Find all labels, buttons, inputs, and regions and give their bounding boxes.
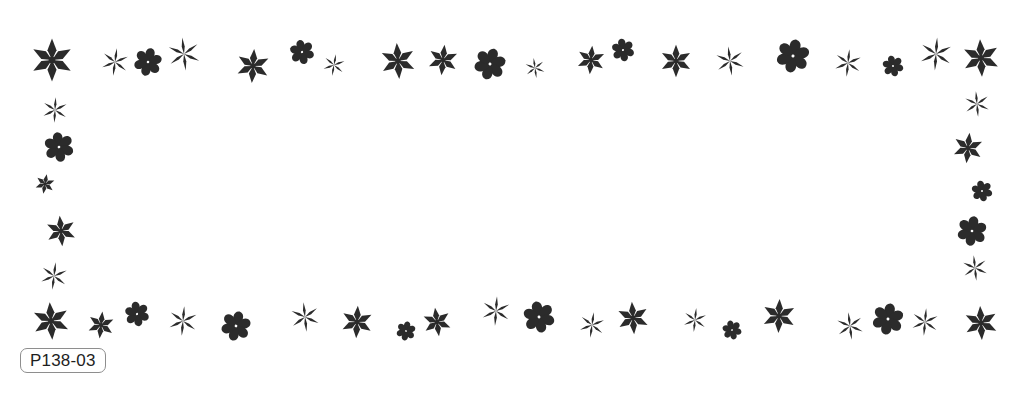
- ornament-star-thin-icon: [909, 306, 942, 339]
- reference-label-text: P138-03: [30, 351, 96, 371]
- ornament-star-bold-icon: [32, 171, 57, 196]
- ornament-star-thin-icon: [166, 304, 201, 339]
- ornament-star-thin-icon: [320, 51, 348, 79]
- ornament-star-thin-icon: [960, 253, 991, 284]
- ornament-star-thin-icon: [917, 35, 955, 73]
- ornament-star-bold-icon: [233, 46, 274, 87]
- ornament-star-bold-icon: [419, 304, 455, 340]
- ornament-star-thin-icon: [40, 95, 69, 124]
- ornament-star-bold-icon: [43, 213, 80, 250]
- ornament-flower-petal-icon: [121, 298, 153, 330]
- ornament-star-thin-icon: [98, 45, 132, 79]
- ornament-star-thin-icon: [681, 306, 710, 335]
- ornament-star-thin-icon: [523, 56, 548, 81]
- ornament-star-bold-icon: [29, 299, 74, 344]
- ornament-star-thin-icon: [37, 259, 70, 292]
- ornament-star-bold-icon: [614, 299, 652, 337]
- ornament-flower-petal-icon: [878, 51, 907, 80]
- ornament-flower-petal-icon: [608, 35, 638, 65]
- ornament-star-bold-icon: [759, 296, 798, 335]
- ornament-star-bold-icon: [377, 40, 420, 83]
- ornament-flower-petal-icon: [129, 43, 168, 82]
- ornament-flower-petal-icon: [770, 33, 815, 78]
- ornament-flower-petal-icon: [468, 42, 513, 87]
- reference-label: P138-03: [20, 348, 106, 373]
- ornament-star-bold-icon: [574, 43, 609, 78]
- ornament-star-thin-icon: [479, 294, 513, 328]
- ornament-star-bold-icon: [961, 303, 1001, 343]
- ornament-star-bold-icon: [338, 303, 376, 341]
- ornament-flower-petal-icon: [285, 35, 318, 68]
- ornament-star-thin-icon: [832, 47, 865, 80]
- ornament-frame: [0, 0, 1023, 393]
- ornament-flower-petal-icon: [968, 177, 996, 205]
- ornament-star-thin-icon: [962, 89, 992, 119]
- ornament-flower-petal-icon: [867, 298, 909, 340]
- ornament-star-bold-icon: [959, 36, 1003, 80]
- ornament-flower-petal-icon: [719, 317, 746, 344]
- ornament-star-thin-icon: [164, 34, 204, 74]
- ornament-flower-petal-icon: [953, 212, 992, 251]
- ornament-star-thin-icon: [712, 43, 748, 79]
- ornament-star-bold-icon: [28, 36, 76, 84]
- ornament-star-thin-icon: [833, 309, 866, 342]
- ornament-star-thin-icon: [287, 299, 322, 334]
- ornament-flower-petal-icon: [518, 296, 561, 339]
- ornament-page: P138-03: [0, 0, 1023, 393]
- ornament-flower-petal-icon: [393, 318, 419, 344]
- ornament-star-bold-icon: [85, 309, 118, 342]
- ornament-flower-petal-icon: [40, 128, 78, 166]
- ornament-flower-petal-icon: [215, 305, 256, 346]
- ornament-star-bold-icon: [949, 129, 986, 166]
- ornament-star-bold-icon: [424, 41, 461, 78]
- ornament-star-thin-icon: [576, 309, 608, 341]
- ornament-star-bold-icon: [658, 43, 694, 79]
